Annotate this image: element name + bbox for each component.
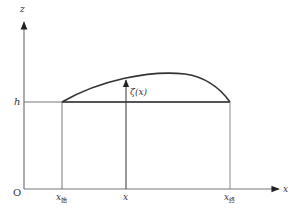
z-axis-label: z <box>19 4 25 14</box>
h-label: h <box>14 96 20 107</box>
x-start-label: x始 <box>56 192 67 204</box>
x-mid-label: x <box>123 192 128 202</box>
diagram-canvas: z x O h ζ(x) x始 x x终 <box>0 0 299 209</box>
zeta-label: ζ(x) <box>130 87 147 97</box>
x-end-sub: 终 <box>229 196 235 204</box>
x-end-label: x终 <box>224 192 235 204</box>
x-axis-label: x <box>283 184 288 194</box>
origin-label: O <box>13 187 21 198</box>
x-start-sub: 始 <box>61 196 67 204</box>
